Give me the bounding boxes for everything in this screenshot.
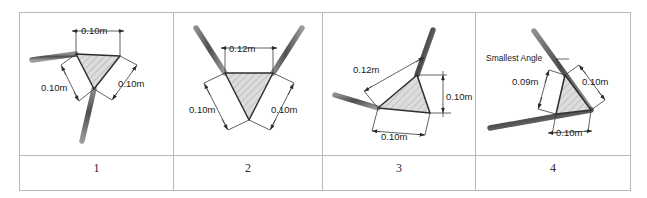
number-cell-3: 3 [323,156,476,191]
triangle-2 [225,73,273,120]
panel-number-2: 2 [174,156,322,176]
rod-arms-4 [490,31,591,128]
smallest-angle-label: Smallest Angle [486,53,542,63]
diagram-cell-3: 0.12m 0.10m 0.10m [323,13,476,156]
number-row: 1 2 3 4 [20,156,631,191]
triangle-3 [378,75,430,113]
panel-number-4: 4 [476,156,630,176]
dim-label-4-bottom: 0.10m [556,127,582,138]
diagram-cell-1: 0.10m 0.10m 0.10m [20,13,174,156]
dim-label-4-upper-right: 0.10m [582,76,608,87]
dim-label-1-top: 0.10m [81,25,107,36]
number-cell-4: 4 [476,156,631,191]
panel-3: 0.12m 0.10m 0.10m [323,13,475,155]
dim-label-1-left: 0.10m [41,82,67,93]
dim-label-4-left: 0.09m [512,76,538,87]
diagram-cell-2: 0.12m 0.10m 0.10m [174,13,323,156]
triangle-1 [76,54,120,89]
figure-root: 0.10m 0.10m 0.10m [0,0,647,198]
panel-number-1: 1 [20,156,173,176]
panel-2: 0.12m 0.10m 0.10m [174,13,322,155]
dim-label-2-left: 0.10m [189,104,215,115]
number-cell-1: 1 [20,156,174,191]
dim-label-1-right: 0.10m [118,78,144,89]
panel-number-3: 3 [323,156,475,176]
dim-label-2-right: 0.10m [271,104,297,115]
dim-label-3-right: 0.10m [446,91,472,102]
dim-label-3-upper-left: 0.12m [353,64,379,75]
figure-table: 0.10m 0.10m 0.10m [19,12,631,191]
diagram-cell-4: Smallest Angle 0.10m 0.09m 0.10m [476,13,631,156]
diagram-row: 0.10m 0.10m 0.10m [20,13,631,156]
dim-label-2-top: 0.12m [229,43,255,54]
number-cell-2: 2 [174,156,323,191]
panel-4: Smallest Angle 0.10m 0.09m 0.10m [476,13,630,155]
panel-1: 0.10m 0.10m 0.10m [20,13,173,155]
dim-label-3-bottom: 0.10m [381,131,407,142]
